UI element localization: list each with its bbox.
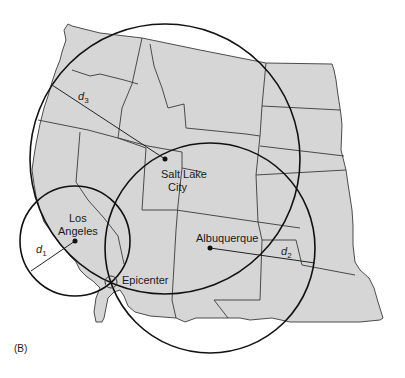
albuquerque-dot bbox=[208, 246, 213, 251]
salt-lake-city-label-line2: City bbox=[168, 181, 187, 193]
los-angeles-label-line2: Angeles bbox=[58, 225, 98, 237]
salt-lake-city-label-line1: Salt Lake bbox=[161, 168, 207, 180]
los-angeles-dot bbox=[73, 239, 78, 244]
western-us-landmass bbox=[32, 24, 383, 322]
d1-label: d1 bbox=[36, 243, 47, 258]
panel-label: (B) bbox=[14, 343, 27, 354]
epicenter-triangulation-map: Salt Lake City Los Angeles Albuquerque E… bbox=[0, 0, 405, 378]
los-angeles-label-line1: Los bbox=[69, 212, 87, 224]
albuquerque-label: Albuquerque bbox=[196, 232, 258, 244]
epicenter-label: Epicenter bbox=[122, 274, 169, 286]
salt-lake-city-dot bbox=[163, 157, 168, 162]
